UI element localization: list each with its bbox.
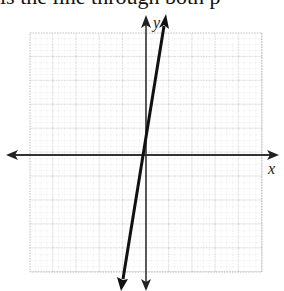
- y-axis-label: y: [153, 14, 160, 32]
- coordinate-graph: [0, 0, 284, 291]
- x-axis-label: x: [268, 160, 275, 178]
- line-down-arrow-icon: [117, 277, 128, 291]
